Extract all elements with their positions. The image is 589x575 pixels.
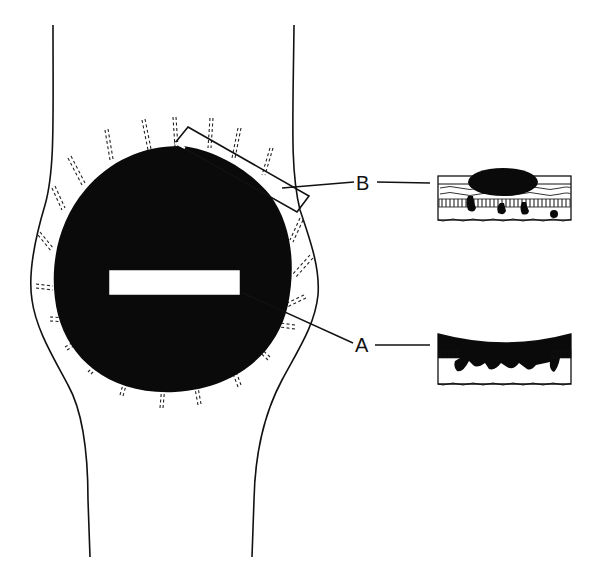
callout-a-target-rectangle [109,270,240,295]
inset-a-cross-section [438,334,571,385]
diagram-canvas: B A [0,0,589,575]
leader-line-b-left [282,182,354,188]
leader-line-b-right [377,182,430,183]
label-b: B [356,172,369,194]
label-a: A [355,334,369,356]
lesion-black-area [54,146,292,392]
inset-b-cross-section [438,168,571,221]
